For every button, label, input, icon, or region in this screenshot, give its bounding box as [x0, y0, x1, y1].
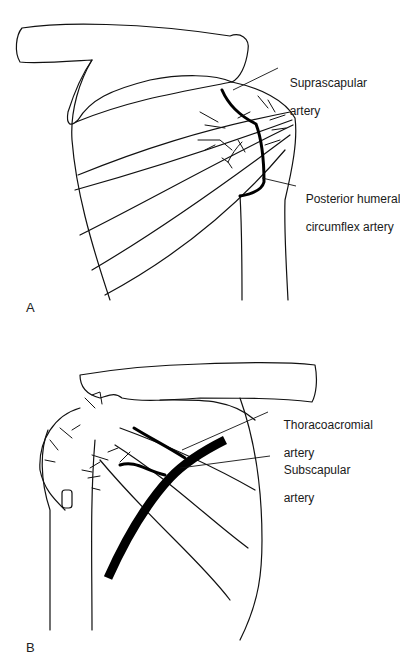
label-line1: Thoracoacromial: [283, 418, 372, 432]
clavicle-a: [16, 24, 248, 124]
label-line1: Suprascapular: [290, 76, 367, 90]
label-line1: Subscapular: [284, 463, 351, 477]
label-line2: artery: [284, 491, 315, 505]
leader-posterior-humeral: [262, 178, 296, 186]
label-suprascapular-artery: Suprascapular artery: [283, 62, 367, 118]
panel-letter-a: A: [26, 300, 35, 315]
subscapular-trunk-b: [108, 440, 225, 578]
label-line2: artery: [290, 104, 321, 118]
label-subscapular-artery: Subscapular artery: [277, 449, 350, 505]
label-posterior-humeral-circumflex-artery: Posterior humeral circumflex artery: [299, 178, 400, 234]
label-line1: Posterior humeral: [306, 192, 400, 206]
clavicle-b: [80, 363, 316, 402]
artery-branches-b: [45, 392, 130, 490]
scapula-b: [42, 398, 262, 640]
label-line2: circumflex artery: [306, 220, 394, 234]
leader-suprascapular: [233, 68, 278, 90]
scapula-a: [72, 60, 296, 300]
artery-branches-a: [198, 96, 286, 168]
panel-letter-b: B: [26, 640, 35, 655]
